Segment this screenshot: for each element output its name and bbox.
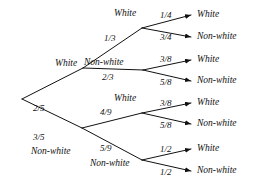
probability-tree-diagram: 2/5 White 3/5 Non-white 1/3 White 2/3 No… [0,0,262,195]
leaf-label-6: Non-white [197,119,237,129]
probability-leaf-7: 1/2 [160,145,172,154]
leaf-label-8: Non-white [197,166,237,176]
leaf-label-7: White [197,144,219,154]
probability-nonwhite-nonwhite: 5/9 [100,144,112,153]
leaf-label-3: White [197,55,219,65]
probability-leaf-8: 1/2 [160,168,172,177]
probability-leaf-3: 3/8 [160,55,172,64]
probability-nonwhite-white: 4/9 [100,108,112,117]
probability-leaf-5: 3/8 [160,99,172,108]
node-label-white: White [55,59,77,69]
leaf-label-5: White [197,98,219,108]
branch-root-white [22,68,83,99]
probability-white-nonwhite: 2/3 [102,73,114,82]
leaf-label-4: Non-white [197,76,237,86]
leaf-label-2: Non-white [197,32,237,42]
node-label-white-nonwhite: Non-white [84,58,124,68]
probability-leaf-6: 5/8 [160,121,172,130]
probability-leaf-4: 5/8 [160,78,172,87]
probability-leaf-1: 1/4 [160,11,172,20]
probability-white-white: 1/3 [104,34,116,43]
node-label-nonwhite-nonwhite: Non-white [90,159,130,169]
node-label-nonwhite: Non-white [31,147,71,157]
node-label-white-white: White [114,9,136,19]
branch-white-nonwhite [83,68,143,70]
leaf-label-1: White [197,10,219,20]
node-label-nonwhite-white: White [114,94,136,104]
probability-root-nonwhite: 3/5 [33,133,45,142]
probability-root-white: 2/5 [33,104,45,113]
probability-leaf-2: 3/4 [160,33,172,42]
branch-nonwhite-nonwhite [82,128,142,160]
branch-root-nonwhite [22,99,82,128]
branch-nonwhite-white [82,113,142,128]
